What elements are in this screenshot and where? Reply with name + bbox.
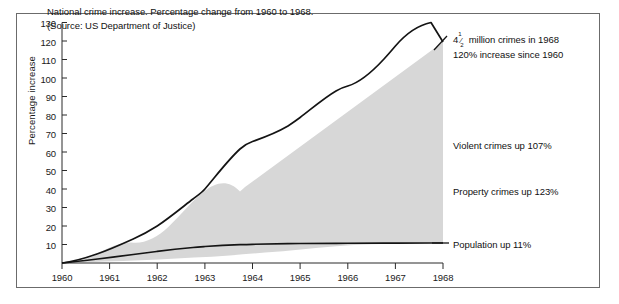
y-axis-ticks bbox=[62, 23, 67, 245]
top-crime-annotation-line-2: 120% increase since 1960 bbox=[453, 48, 563, 62]
x-axis-ticks bbox=[62, 263, 443, 269]
population-annotation: Population up 11% bbox=[453, 238, 531, 252]
crime-band-area bbox=[62, 42, 443, 263]
top-crime-annotation-line-1: 41⁄2 million crimes in 1968 bbox=[453, 33, 563, 48]
one-half-fraction: 1⁄2 bbox=[458, 33, 466, 48]
top-crime-annotation: 41⁄2 million crimes in 1968 120% increas… bbox=[453, 33, 563, 61]
violent-crimes-annotation: Violent crimes up 107% bbox=[453, 139, 552, 153]
property-crimes-annotation: Property crimes up 123% bbox=[453, 185, 559, 199]
figure-root: Percentage increase National crime incre… bbox=[0, 0, 619, 304]
top-crime-annotation-suffix: million crimes in 1968 bbox=[466, 34, 559, 45]
